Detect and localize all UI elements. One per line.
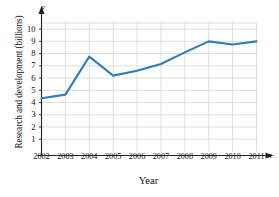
y-tick-label: 1 [22, 134, 36, 144]
y-tick-label: 9 [22, 36, 36, 46]
data-series-line [42, 41, 257, 98]
chart-figure: Research and development (billions) Year… [0, 0, 279, 197]
x-tick-label: 2011 [242, 152, 272, 161]
y-tick-label: 4 [22, 97, 36, 107]
series-line-research-and-development [42, 41, 257, 98]
y-axis-arrowhead [39, 6, 45, 14]
gridlines [42, 23, 257, 152]
y-tick-label: 10 [22, 24, 36, 34]
y-tick-label: 6 [22, 73, 36, 83]
y-tick-label: 3 [22, 109, 36, 119]
y-tick-label: 7 [22, 60, 36, 70]
y-tick-label: 2 [22, 122, 36, 132]
line-chart-plot [0, 0, 279, 197]
y-tick-label: 8 [22, 48, 36, 58]
y-tick-label: 5 [22, 85, 36, 95]
